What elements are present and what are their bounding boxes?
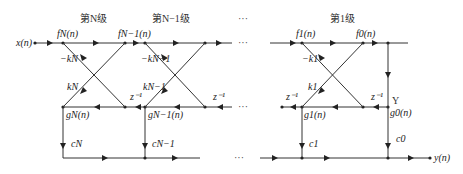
fN-label: fN(n) (57, 28, 79, 40)
lattice-ladder-filter-diagram: 第N级 第N−1级 ··· 第1级 (0, 0, 463, 174)
ellipsis-top: ··· (238, 37, 248, 48)
delay-label-n: z⁻¹ (129, 91, 142, 102)
backward-path (61, 104, 389, 110)
title-ellipsis: ··· (238, 13, 248, 24)
f1-label: f1(n) (296, 28, 316, 40)
g1-label: g1(n) (304, 109, 326, 121)
fN-1-label: fN−1(n) (118, 28, 152, 40)
cN-label: cN (71, 138, 83, 149)
neg-kN-1-label: −kN−1 (141, 53, 171, 64)
delay-label-1: z⁻¹ (285, 91, 298, 102)
neg-k1-label: −k1 (302, 53, 318, 64)
stage-title-n: 第N级 (80, 12, 107, 24)
neg-kN-label: −kN (60, 53, 79, 64)
output-label: y(n) (433, 152, 451, 164)
ellipsis-middle: ··· (238, 101, 248, 112)
k1-label: k1 (308, 81, 317, 92)
cN-1-label: cN−1 (152, 138, 175, 149)
stage-title-1: 第1级 (330, 12, 355, 24)
c1-label: c1 (309, 138, 318, 149)
gN-1-label: gN−1(n) (148, 109, 184, 121)
f0-label: f0(n) (356, 28, 376, 40)
kN-label: kN (67, 81, 79, 92)
ladder-taps (60, 107, 391, 158)
stage-title-n-1: 第N−1级 (152, 12, 190, 24)
input-label: x(n) (15, 37, 33, 49)
kN-1-label: kN−1 (143, 81, 166, 92)
forward-path (33, 40, 408, 46)
g0-label: g0(n) (390, 107, 412, 119)
c0-label: c0 (396, 133, 405, 144)
ellipsis-bottom: ··· (234, 152, 244, 163)
delay-label-0: z⁻¹ (370, 91, 383, 102)
output-path (63, 155, 432, 161)
delay-label-n-1: z⁻¹ (212, 91, 225, 102)
y-marker: Y (392, 95, 399, 106)
gN-label: gN(n) (66, 109, 90, 121)
